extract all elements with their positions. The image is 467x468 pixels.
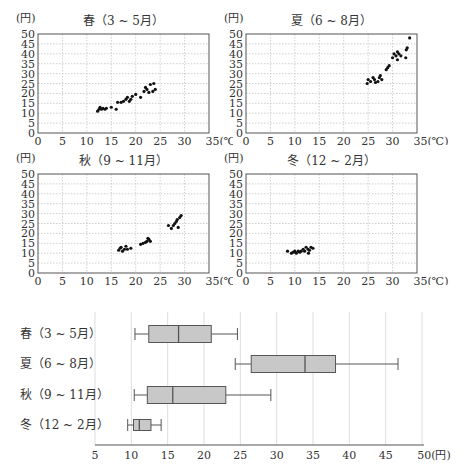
data-point	[126, 248, 129, 251]
x-tick-label: 20	[197, 449, 211, 462]
data-point	[115, 108, 118, 111]
x-tick-label: 35	[306, 449, 320, 462]
scatter-spring: 春（3 ~ 5月）(円)0510152025303540455005101520…	[0, 0, 233, 145]
data-point	[286, 250, 289, 253]
data-point	[149, 240, 152, 243]
data-point	[139, 96, 142, 99]
data-point	[134, 93, 137, 96]
data-point	[366, 82, 369, 85]
x-tick-label: 10	[80, 275, 94, 285]
scatter-autumn-plot: 秋（9 ~ 11月）(円)051015202530354045500510152…	[0, 140, 233, 285]
y-unit-label: (円)	[16, 152, 36, 165]
scatter-summer: 夏（6 ~ 8月）(円)0510152025303540455005101520…	[208, 0, 467, 145]
scatter-winter: 冬（12 ~ 2月）(円)051015202530354045500510152…	[208, 140, 467, 285]
x-tick-label: 10	[124, 449, 138, 462]
data-point	[408, 36, 411, 39]
data-point	[119, 246, 122, 249]
x-tick-label: 35(℃)	[414, 275, 449, 285]
category-label: 秋（9 ~ 11月）	[20, 388, 109, 402]
data-point	[376, 80, 379, 83]
x-tick-label: 15	[312, 275, 326, 285]
data-point	[404, 56, 407, 59]
data-point	[145, 88, 148, 91]
data-point	[394, 54, 397, 57]
x-tick-label: 25	[153, 275, 167, 285]
y-unit-label: (円)	[224, 12, 244, 25]
data-point	[308, 249, 311, 252]
chart-title: 夏（6 ~ 8月）	[291, 14, 372, 28]
box	[149, 326, 211, 343]
data-point	[151, 90, 154, 93]
data-point	[110, 106, 113, 109]
boxplot-price-by-season: 5101520253035404550(円)春（3 ~ 5月）夏（6 ~ 8月）…	[0, 285, 467, 468]
data-point	[369, 80, 372, 83]
data-point	[379, 74, 382, 77]
box	[147, 387, 225, 404]
category-label: 夏（6 ~ 8月）	[20, 357, 101, 371]
data-point	[180, 214, 183, 217]
x-tick-label: 0	[243, 275, 250, 285]
data-point	[126, 96, 129, 99]
data-point	[177, 226, 180, 229]
y-tick-label: 50	[229, 168, 243, 181]
data-point	[129, 247, 132, 250]
x-tick-label: 30	[178, 275, 192, 285]
data-point	[307, 252, 310, 255]
data-point	[311, 247, 314, 250]
data-point	[396, 58, 399, 61]
data-point	[167, 224, 170, 227]
x-tick-label: 15	[104, 275, 118, 285]
x-tick-label: 45	[379, 449, 393, 462]
x-tick-label: 50(円)	[417, 449, 451, 462]
data-point	[129, 98, 132, 101]
data-point	[146, 237, 149, 240]
data-point	[303, 250, 306, 253]
y-tick-label: 50	[21, 28, 35, 41]
x-tick-label: 5	[267, 275, 274, 285]
category-label: 冬（12 ~ 2月）	[20, 417, 109, 432]
x-tick-label: 30	[386, 275, 400, 285]
chart-title: 春（3 ~ 5月）	[83, 14, 164, 28]
x-tick-label: 20	[337, 275, 351, 285]
data-point	[380, 78, 383, 81]
y-unit-label: (円)	[224, 152, 244, 165]
data-point	[399, 54, 402, 57]
data-point	[373, 78, 376, 81]
data-point	[131, 95, 134, 98]
y-tick-label: 50	[21, 168, 35, 181]
x-tick-label: 25	[233, 449, 247, 462]
data-point	[105, 107, 108, 110]
category-label: 春（3 ~ 5月）	[20, 327, 101, 341]
data-point	[391, 56, 394, 59]
data-point	[176, 218, 179, 221]
data-point	[142, 90, 145, 93]
boxplot-plot: 5101520253035404550(円)春（3 ~ 5月）夏（6 ~ 8月）…	[0, 285, 467, 468]
x-tick-label: 15	[161, 449, 175, 462]
chart-title: 冬（12 ~ 2月）	[287, 153, 376, 168]
x-tick-label: 40	[342, 449, 356, 462]
data-point	[147, 91, 150, 94]
data-point	[149, 83, 152, 86]
box	[251, 356, 335, 373]
x-tick-label: 5	[92, 449, 99, 462]
data-point	[406, 46, 409, 49]
y-tick-label: 50	[229, 28, 243, 41]
data-point	[170, 227, 173, 230]
x-tick-label: 20	[129, 275, 143, 285]
data-point	[388, 64, 391, 67]
data-point	[116, 101, 119, 104]
data-point	[124, 245, 127, 248]
x-tick-label: 30	[270, 449, 284, 462]
x-tick-label: 0	[35, 275, 42, 285]
scatter-spring-plot: 春（3 ~ 5月）(円)0510152025303540455005101520…	[0, 0, 233, 145]
x-tick-label: 10	[288, 275, 302, 285]
box	[134, 420, 151, 431]
x-tick-label: 25	[361, 275, 375, 285]
data-point	[152, 82, 155, 85]
scatter-winter-plot: 冬（12 ~ 2月）(円)051015202530354045500510152…	[208, 140, 467, 285]
y-unit-label: (円)	[16, 12, 36, 25]
data-point	[123, 248, 126, 251]
scatter-autumn: 秋（9 ~ 11月）(円)051015202530354045500510152…	[0, 140, 233, 285]
chart-title: 秋（9 ~ 11月）	[79, 154, 168, 168]
scatter-summer-plot: 夏（6 ~ 8月）(円)0510152025303540455005101520…	[208, 0, 467, 145]
